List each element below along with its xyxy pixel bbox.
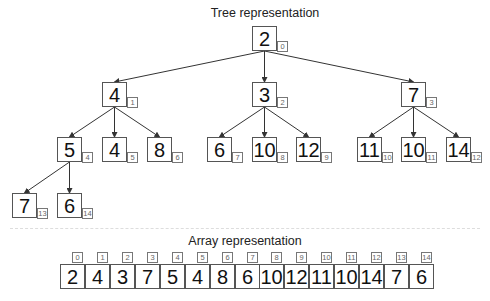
array-cell-index: 7 [247, 252, 258, 263]
array-cell-index: 3 [147, 252, 158, 263]
tree-node: 10 [401, 137, 426, 162]
tree-node-index: 2 [277, 97, 288, 108]
array-cell: 6 [235, 264, 260, 289]
tree-edge [265, 51, 414, 82]
array-cell: 10 [334, 264, 359, 289]
tree-node: 10 [252, 137, 277, 162]
array-title: Array representation [0, 234, 490, 248]
tree-node: 2 [252, 26, 277, 51]
array-cell: 5 [160, 264, 185, 289]
tree-edge [370, 107, 414, 137]
array-cell: 7 [135, 264, 160, 289]
tree-edge [25, 162, 70, 193]
tree-node-index: 13 [37, 208, 48, 219]
tree-node-index: 6 [172, 152, 183, 163]
tree-node-index: 11 [426, 152, 437, 163]
array-cell: 12 [284, 264, 309, 289]
array-cell: 10 [259, 264, 284, 289]
tree-node-index: 12 [471, 152, 482, 163]
tree-edge [414, 107, 459, 137]
array-cell: 14 [359, 264, 384, 289]
tree-edge [115, 51, 265, 82]
tree-edge [265, 107, 309, 137]
tree-node-index: 5 [127, 152, 138, 163]
array-cell: 8 [210, 264, 235, 289]
tree-edge [70, 107, 115, 137]
tree-node: 14 [446, 137, 471, 162]
array-cell: 4 [85, 264, 110, 289]
array-cell-index: 5 [197, 252, 208, 263]
tree-node: 7 [12, 193, 37, 218]
tree-node-index: 3 [426, 97, 437, 108]
array-cell: 11 [309, 264, 334, 289]
tree-node: 3 [252, 82, 277, 107]
tree-node: 6 [207, 137, 232, 162]
array-cell-index: 8 [271, 252, 282, 263]
tree-node-index: 9 [321, 152, 332, 163]
tree-node: 4 [102, 137, 127, 162]
tree-node: 7 [401, 82, 426, 107]
array-cell-index: 10 [321, 252, 332, 263]
section-divider [10, 228, 480, 229]
array-cell: 2 [60, 264, 85, 289]
tree-node-index: 0 [277, 41, 288, 52]
array-cell-index: 9 [296, 252, 307, 263]
array-cell-index: 12 [371, 252, 382, 263]
tree-node-index: 7 [232, 152, 243, 163]
array-cell: 4 [185, 264, 210, 289]
tree-node: 6 [57, 193, 82, 218]
tree-node-index: 14 [82, 208, 93, 219]
tree-node-index: 8 [277, 152, 288, 163]
tree-node-index: 1 [127, 97, 138, 108]
array-cell: 6 [409, 264, 434, 289]
tree-node: 11 [357, 137, 382, 162]
array-cell-index: 14 [421, 252, 432, 263]
array-cell-index: 6 [222, 252, 233, 263]
tree-node: 12 [296, 137, 321, 162]
tree-node: 8 [147, 137, 172, 162]
array-cell-index: 1 [97, 252, 108, 263]
tree-edge [220, 107, 265, 137]
array-cell: 3 [110, 264, 135, 289]
tree-node-index: 10 [382, 152, 393, 163]
array-cell: 7 [384, 264, 409, 289]
array-cell-index: 4 [172, 252, 183, 263]
tree-node: 5 [57, 137, 82, 162]
array-cell-index: 13 [396, 252, 407, 263]
array-cell-index: 11 [346, 252, 357, 263]
array-cell-index: 2 [122, 252, 133, 263]
array-cell-index: 0 [72, 252, 83, 263]
tree-node-index: 4 [82, 152, 93, 163]
tree-edge [115, 107, 160, 137]
tree-node: 4 [102, 82, 127, 107]
